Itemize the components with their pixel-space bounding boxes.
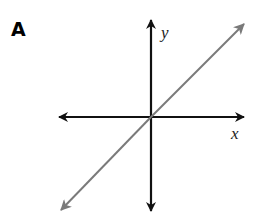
diagonal-line-down xyxy=(61,117,151,210)
coordinate-diagram: y x xyxy=(0,0,253,216)
y-axis-label: y xyxy=(159,23,169,42)
x-axis-label: x xyxy=(230,124,239,143)
